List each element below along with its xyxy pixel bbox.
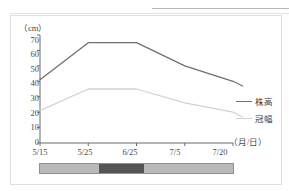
series-line-zhugao <box>40 43 233 82</box>
color-bar-segment-1 <box>40 164 99 173</box>
legend-label-guanfu: 冠幅 <box>255 114 273 124</box>
legend-swatch-guanfu <box>236 118 252 119</box>
color-bar-segment-3 <box>144 164 233 173</box>
chart-plot-area: （cm） （月/日） 70 60 50 40 30 20 10 0 5/15 5… <box>11 16 283 186</box>
top-horizontal-rule <box>152 8 289 9</box>
legend-entry-guanfu: 冠幅 <box>236 112 273 124</box>
legend-swatch-zhugao <box>236 101 252 102</box>
legend-label-zhugao: 株高 <box>255 97 273 107</box>
stage-color-bar <box>39 163 234 174</box>
series-line-guanfu <box>40 89 233 112</box>
legend-entry-zhugao: 株高 <box>236 95 273 107</box>
series-tail-zhugao <box>233 81 243 86</box>
figure-root: （cm） （月/日） 70 60 50 40 30 20 10 0 5/15 5… <box>0 0 289 191</box>
chart-frame: （cm） （月/日） 70 60 50 40 30 20 10 0 5/15 5… <box>10 15 282 185</box>
axes-group <box>37 35 233 146</box>
secondary-horizontal-rule <box>10 13 289 14</box>
color-bar-segment-2 <box>99 164 144 173</box>
series-group <box>40 43 243 117</box>
